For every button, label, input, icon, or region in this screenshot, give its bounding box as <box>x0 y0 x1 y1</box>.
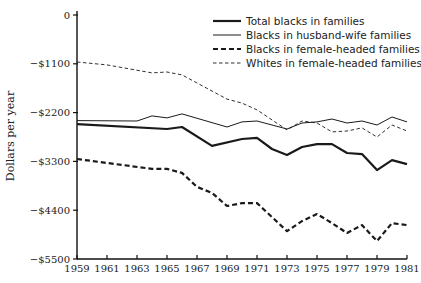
legend-label: Blacks in female-headed families <box>246 43 420 55</box>
line-chart: 0−$1100−$2200−$3300−$4400−$5500 19591961… <box>0 0 421 283</box>
x-tick-label: 1961 <box>94 263 119 274</box>
legend-label: Blacks in husband-wife families <box>246 29 411 41</box>
y-axis-ticks: 0−$1100−$2200−$3300−$4400−$5500 <box>30 10 78 265</box>
x-tick-label: 1981 <box>394 263 419 274</box>
legend-item: Blacks in female-headed families <box>213 43 420 55</box>
series-total-blacks-in-families <box>77 124 407 170</box>
x-tick-label: 1977 <box>334 263 359 274</box>
legend-item: Blacks in husband-wife families <box>213 29 411 41</box>
x-tick-label: 1973 <box>274 263 299 274</box>
x-tick-label: 1971 <box>244 263 269 274</box>
x-tick-label: 1959 <box>64 263 89 274</box>
series-blacks-in-female-headed-families <box>77 159 407 241</box>
legend-item: Whites in female-headed families <box>213 57 421 69</box>
x-tick-label: 1965 <box>154 263 179 274</box>
x-tick-label: 1967 <box>184 263 209 274</box>
y-tick-label: −$3300 <box>30 156 70 167</box>
x-tick-label: 1975 <box>304 263 329 274</box>
legend: Total blacks in familiesBlacks in husban… <box>213 15 421 69</box>
x-tick-label: 1969 <box>214 263 239 274</box>
x-axis-ticks: 1959196119631965196719691971197319751977… <box>64 255 419 274</box>
legend-item: Total blacks in families <box>213 15 365 27</box>
y-tick-label: 0 <box>64 10 70 21</box>
data-series <box>77 62 407 241</box>
y-tick-label: −$4400 <box>30 205 70 216</box>
x-tick-label: 1979 <box>364 263 389 274</box>
y-tick-label: −$1100 <box>30 58 70 69</box>
legend-label: Whites in female-headed families <box>246 57 421 69</box>
legend-label: Total blacks in families <box>245 15 365 27</box>
y-tick-label: −$2200 <box>30 107 70 118</box>
y-axis-label: Dollars per year <box>4 90 17 181</box>
x-tick-label: 1963 <box>124 263 149 274</box>
